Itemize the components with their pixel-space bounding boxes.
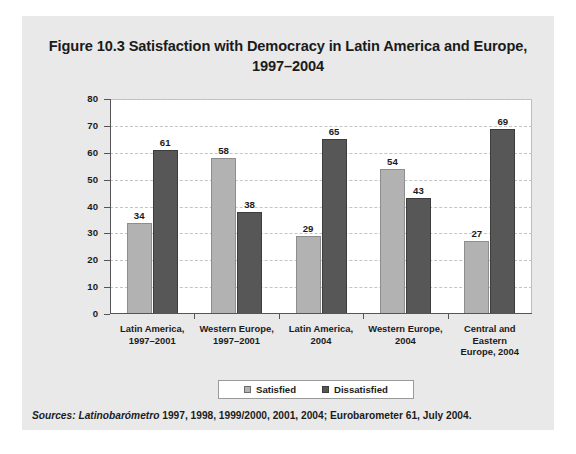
- y-axis-tick: [104, 314, 110, 315]
- bar-satisfied: [127, 223, 152, 314]
- source-italic-term: Latinobarómetro: [76, 410, 160, 421]
- y-axis-tick-label: 10: [54, 281, 98, 292]
- figure-panel: Figure 10.3 Satisfaction with Democracy …: [22, 16, 554, 430]
- figure-title-line-1: Figure 10.3 Satisfaction with Democracy …: [46, 36, 530, 56]
- bar-value-label: 38: [235, 199, 265, 210]
- y-axis-tick-label: 60: [54, 147, 98, 158]
- legend-label: Satisfied: [256, 384, 296, 395]
- bar-value-label: 54: [377, 156, 407, 167]
- bar-dissatisfied: [406, 198, 431, 314]
- y-axis-tick-label: 30: [54, 227, 98, 238]
- x-axis-tick: [279, 314, 280, 319]
- bar-dissatisfied: [237, 212, 262, 314]
- category-label-line: 1997–2001: [188, 335, 284, 347]
- bar-satisfied: [211, 158, 236, 314]
- bar-dissatisfied: [153, 150, 178, 314]
- category-label-line: Western Europe,: [188, 323, 284, 335]
- bar-dissatisfied: [490, 129, 515, 314]
- category-label-line: Eastern: [442, 335, 538, 347]
- y-axis-tick-label: 0: [54, 308, 98, 319]
- category-label-line: Central and: [442, 323, 538, 335]
- x-axis-line: [110, 313, 532, 314]
- bar-value-label: 61: [150, 137, 180, 148]
- category-label-line: 1997–2001: [104, 335, 200, 347]
- category-label-line: 2004: [273, 335, 369, 347]
- y-axis-tick-label: 50: [54, 174, 98, 185]
- x-axis-tick: [194, 314, 195, 319]
- y-axis-tick-label: 20: [54, 254, 98, 265]
- gridline: [110, 99, 532, 100]
- category-label: Western Europe,2004: [357, 323, 453, 346]
- legend-entry-dissatisfied: Dissatisfied: [322, 384, 388, 395]
- category-label: Latin America,2004: [273, 323, 369, 346]
- source-prefix: Sources:: [32, 410, 76, 421]
- bar-value-label: 43: [403, 185, 433, 196]
- category-label-line: Latin America,: [273, 323, 369, 335]
- bar-chart: 01020304050607080 34615838296554432769 L…: [54, 94, 532, 344]
- y-axis-tick-label: 70: [54, 120, 98, 131]
- y-axis-line: [110, 99, 111, 314]
- category-label-line: Europe, 2004: [442, 346, 538, 358]
- bar-value-label: 34: [124, 210, 154, 221]
- figure-title-line-2: 1997–2004: [46, 56, 530, 76]
- y-axis-tick-label: 40: [54, 201, 98, 212]
- category-label: Western Europe,1997–2001: [188, 323, 284, 346]
- category-label-line: Latin America,: [104, 323, 200, 335]
- legend-label: Dissatisfied: [334, 384, 388, 395]
- bar-satisfied: [464, 241, 489, 314]
- bar-satisfied: [380, 169, 405, 314]
- chart-legend: SatisfiedDissatisfied: [218, 380, 414, 399]
- y-axis-tick-label: 80: [54, 93, 98, 104]
- legend-entry-satisfied: Satisfied: [244, 384, 296, 395]
- category-label-line: 2004: [357, 335, 453, 347]
- source-rest: 1997, 1998, 1999/2000, 2001, 2004; Eurob…: [159, 410, 471, 421]
- bar-value-label: 65: [319, 126, 349, 137]
- bar-value-label: 58: [209, 145, 239, 156]
- legend-swatch-satisfied-icon: [244, 386, 251, 393]
- category-label: Latin America,1997–2001: [104, 323, 200, 346]
- bar-satisfied: [296, 236, 321, 314]
- x-axis-tick: [448, 314, 449, 319]
- bar-dissatisfied: [322, 139, 347, 314]
- source-note: Sources: Latinobarómetro 1997, 1998, 199…: [32, 410, 548, 421]
- bar-value-label: 27: [462, 228, 492, 239]
- legend-swatch-dissatisfied-icon: [322, 386, 329, 393]
- category-label-line: Western Europe,: [357, 323, 453, 335]
- x-axis-tick: [363, 314, 364, 319]
- figure-title: Figure 10.3 Satisfaction with Democracy …: [46, 36, 530, 76]
- bar-value-label: 29: [293, 223, 323, 234]
- category-label: Central andEasternEurope, 2004: [442, 323, 538, 358]
- bar-value-label: 69: [488, 116, 518, 127]
